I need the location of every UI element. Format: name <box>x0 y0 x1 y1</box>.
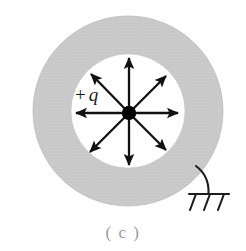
figure-panel-c: +q ( c ) <box>0 0 246 251</box>
figure-caption: ( c ) <box>106 223 141 242</box>
charge-symbol: q <box>89 84 99 105</box>
point-charge-dot <box>122 106 136 120</box>
charge-sign: + <box>75 84 86 105</box>
figure-canvas: +q ( c ) <box>0 0 246 251</box>
